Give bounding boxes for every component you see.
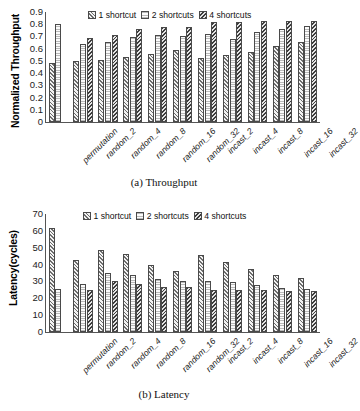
throughput-y-axis-label: Normalized Throughput (9, 11, 21, 131)
bar-random_8-series2 (130, 275, 136, 332)
bar-group (171, 12, 196, 122)
bar-group (171, 214, 196, 332)
y-tick-label: 20 (32, 294, 43, 304)
y-tick-label: 0.9 (30, 7, 43, 17)
legend-swatch-icon (88, 11, 96, 19)
bar-group (96, 214, 121, 332)
legend-item-1: 1 shortcut (83, 211, 131, 221)
y-tick-label: 0.7 (30, 32, 43, 42)
x-tick-label-incast_4: incast_4 (251, 126, 281, 156)
bar-group (46, 12, 71, 122)
throughput-caption: (a) Throughput (0, 176, 328, 188)
bar-random_8-series3 (136, 29, 142, 122)
bar-incast_16-series1 (273, 46, 279, 122)
bar-random_32-series2 (180, 281, 186, 332)
bar-random_4-series3 (112, 281, 118, 332)
bar-random_8-series1 (123, 254, 129, 332)
bar-incast_32-series2 (304, 26, 310, 122)
bar-random_2-series2 (80, 284, 86, 332)
bar-incast_32-series1 (298, 278, 304, 332)
bar-incast_32-series3 (311, 21, 317, 122)
bar-random_32-series2 (180, 36, 186, 122)
legend-item-2: 2 shortcuts (136, 211, 189, 221)
bar-incast_16-series2 (279, 29, 285, 123)
bar-group (71, 12, 96, 122)
legend-swatch-icon (136, 212, 144, 220)
bar-random_2-series1 (73, 260, 79, 332)
y-tick-label: 60 (32, 226, 43, 236)
legend-swatch-icon (194, 212, 202, 220)
y-tick-label: 0.5 (30, 56, 43, 66)
bar-random_16-series1 (148, 265, 154, 332)
bar-incast_4-series3 (236, 22, 242, 122)
throughput-x-axis-line (45, 122, 320, 123)
y-tick-label: 0.6 (30, 44, 43, 54)
legend-label: 2 shortcuts (152, 10, 194, 20)
bar-random_16-series1 (148, 54, 154, 122)
legend-item-3: 4 shortcuts (199, 10, 252, 20)
bar-group (245, 214, 270, 332)
bar-group (295, 12, 320, 122)
bar-group (121, 214, 146, 332)
bar-incast_4-series1 (223, 55, 229, 122)
legend-swatch-icon (199, 11, 207, 19)
legend-item-3: 4 shortcuts (194, 211, 247, 221)
bar-random_4-series1 (98, 250, 104, 332)
latency-caption: (b) Latency (0, 388, 328, 400)
bar-random_16-series3 (161, 287, 167, 333)
latency-chart-panel: Latency(cycles) 010203040506070 1 shortc… (0, 200, 328, 411)
bar-group (195, 12, 220, 122)
bar-random_32-series3 (186, 27, 192, 122)
y-tick-label: 0.3 (30, 81, 43, 91)
bar-incast_32-series2 (304, 289, 310, 332)
bar-random_32-series1 (173, 271, 179, 332)
bar-incast_2-series2 (205, 281, 211, 332)
bar-incast_32-series3 (311, 291, 317, 332)
bar-random_4-series2 (105, 42, 111, 122)
bar-random_8-series1 (123, 57, 129, 122)
bar-permutation-series1 (49, 63, 55, 122)
bar-random_16-series3 (161, 27, 167, 122)
bar-random_8-series2 (130, 37, 136, 122)
legend-label: 1 shortcut (94, 211, 132, 221)
bar-random_8-series3 (136, 284, 142, 332)
bar-incast_2-series3 (211, 290, 217, 332)
bar-random_2-series3 (87, 38, 93, 122)
bar-group (220, 214, 245, 332)
bar-incast_16-series3 (286, 291, 292, 332)
y-tick-label: 70 (32, 209, 43, 219)
bar-incast_32-series1 (298, 42, 304, 122)
throughput-bar-groups (46, 12, 320, 122)
bar-random_4-series2 (105, 273, 111, 332)
bar-random_2-series3 (87, 290, 93, 332)
y-tick-label: 0 (38, 327, 43, 337)
bar-group (270, 12, 295, 122)
bar-random_4-series1 (98, 60, 104, 122)
bar-permutation-series1 (49, 228, 55, 332)
bar-permutation-series2 (55, 289, 61, 332)
y-tick-label: 30 (32, 277, 43, 287)
bar-random_32-series3 (186, 287, 192, 333)
bar-random_16-series2 (155, 35, 161, 122)
bar-random_16-series2 (155, 279, 161, 332)
bar-incast_8-series2 (254, 285, 260, 332)
y-tick-label: 0.1 (30, 105, 43, 115)
legend-item-2: 2 shortcuts (141, 10, 194, 20)
y-tick-label: 0.8 (30, 19, 43, 29)
bar-incast_8-series1 (248, 269, 254, 332)
bar-group (195, 214, 220, 332)
bar-incast_16-series2 (279, 288, 285, 332)
bar-incast_4-series1 (223, 262, 229, 332)
bar-group (245, 12, 270, 122)
bar-incast_4-series2 (230, 282, 236, 332)
y-tick-label: 40 (32, 260, 43, 270)
y-tick-label: 50 (32, 243, 43, 253)
bar-incast_2-series3 (211, 22, 217, 122)
bar-group (121, 12, 146, 122)
latency-bar-groups (46, 214, 320, 332)
bar-group (270, 214, 295, 332)
legend-label: 1 shortcut (99, 10, 137, 20)
latency-y-axis-label: Latency(cycles) (7, 218, 19, 318)
bar-incast_8-series3 (261, 290, 267, 332)
